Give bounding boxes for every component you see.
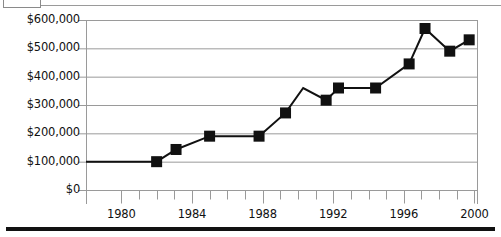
x-axis-tick-label: 1992 (319, 209, 347, 221)
x-axis-tick-label: 2000 (460, 209, 488, 221)
x-axis-tick-labels: 198019841988199219962000 (0, 0, 501, 237)
bottom-divider-rule (6, 227, 495, 231)
x-axis-tick-label: 1988 (248, 209, 276, 221)
x-axis-tick-label: 1980 (107, 209, 135, 221)
chart-figure: $600,000$500,000$400,000$300,000$200,000… (0, 0, 501, 237)
x-axis-tick-label: 1996 (390, 209, 418, 221)
x-axis-tick-label: 1984 (178, 209, 206, 221)
